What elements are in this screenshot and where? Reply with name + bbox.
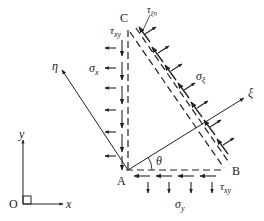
eta-axis [62,70,128,170]
label-xi: ξ [248,86,254,100]
label-sigma-x: σx [89,61,99,77]
label-b: B [232,164,240,178]
tau-xieta-arrows [139,27,228,154]
label-a: A [117,174,126,188]
right-angle-mark [23,196,31,204]
sigma-y-arrows [148,182,212,193]
sigma-xi-arrows [145,27,234,145]
label-y-axis: y [18,127,25,141]
sigma-x-arrows [105,48,116,156]
label-eta: η [52,59,58,73]
label-tau-xy-left: τxy [110,24,121,39]
edge-cb-outer [136,28,230,164]
tau-xieta-leader [143,15,150,30]
stress-diagram: C A B O x y η ξ θ σx τxy τξη σξ τxy σy [0,0,264,221]
label-o: O [9,197,18,211]
xy-axes [23,140,63,204]
label-sigma-xi: σξ [196,69,206,85]
edge-cb-inner [130,32,224,168]
label-x-axis: x [65,197,72,211]
label-theta: θ [156,154,162,168]
theta-arc [148,157,152,170]
label-sigma-y: σy [175,197,185,213]
label-tau-xy-bottom: τxy [220,180,231,195]
label-tau-xieta: τξη [147,4,158,17]
triangle-element [126,28,230,170]
label-c: C [120,11,128,25]
